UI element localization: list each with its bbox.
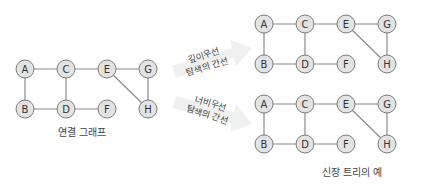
node-A: A [16,60,34,78]
dfs-spanning-tree: ABCDEFGH [255,15,396,73]
node-E: E [337,95,355,113]
node-label: A [261,19,268,30]
connected-graph-caption: 연결 그래프 [58,127,106,138]
node-G: G [378,15,396,33]
node-G: G [378,95,396,113]
node-H: H [139,100,157,118]
node-F: F [98,100,116,118]
node-A: A [255,95,273,113]
node-label: F [104,104,110,115]
node-C: C [57,60,75,78]
node-label: G [383,19,391,30]
node-E: E [98,60,116,78]
bfs-arrow: 너비우선 탐색의 간선 [172,92,252,132]
node-F: F [337,55,355,73]
node-D: D [57,100,75,118]
node-label: C [63,64,70,75]
node-label: F [343,139,349,150]
node-label: D [301,59,309,70]
node-H: H [378,55,396,73]
node-label: E [104,64,110,75]
node-label: B [261,59,268,70]
connected-graph: ABCDEFGH [16,60,157,118]
node-label: F [343,59,349,70]
bfs-spanning-tree: ABCDEFGH [255,95,396,153]
node-B: B [255,55,273,73]
spanning-tree-caption: 신장 트리의 예 [322,167,382,178]
node-label: D [62,104,70,115]
node-label: A [22,64,29,75]
node-label: H [383,59,391,70]
node-label: G [144,64,152,75]
dfs-arrow-shape [172,40,252,78]
diagram-canvas: 깊이우선 탐색의 간선 너비우선 탐색의 간선 ABCDEFGH ABCDEFG… [0,0,425,187]
node-F: F [337,135,355,153]
dfs-arrow: 깊이우선 탐색의 간선 [172,40,252,78]
node-C: C [296,95,314,113]
node-label: D [301,139,309,150]
node-label: E [343,99,349,110]
node-B: B [255,135,273,153]
node-D: D [296,55,314,73]
node-label: C [302,99,309,110]
node-B: B [16,100,34,118]
node-label: A [261,99,268,110]
node-G: G [139,60,157,78]
node-label: B [261,139,268,150]
node-H: H [378,135,396,153]
node-E: E [337,15,355,33]
node-label: B [22,104,29,115]
node-A: A [255,15,273,33]
node-label: H [144,104,152,115]
node-label: G [383,99,391,110]
node-label: C [302,19,309,30]
node-C: C [296,15,314,33]
node-label: H [383,139,391,150]
node-D: D [296,135,314,153]
node-label: E [343,19,349,30]
